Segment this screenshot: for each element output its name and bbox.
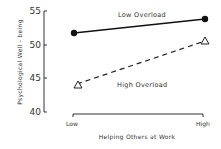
series-label-high-overload: High Overload xyxy=(117,81,167,89)
series-label-low-overload: Low Overload xyxy=(118,11,166,19)
x-axis: Low High Helping Others at Work xyxy=(66,114,210,141)
y-tick-45: 45 xyxy=(30,73,41,83)
y-tick-50: 50 xyxy=(30,40,42,50)
line-chart: 55 50 45 40 Psychological Well - being L… xyxy=(0,0,221,149)
x-category-high: High xyxy=(196,120,210,128)
y-axis-title: Psychological Well - being xyxy=(16,19,24,105)
point-low-overload-low xyxy=(71,30,77,36)
y-axis: 55 50 45 40 Psychological Well - being xyxy=(16,6,47,117)
point-low-overload-high xyxy=(202,16,208,22)
y-tick-55: 55 xyxy=(30,6,41,16)
x-category-low: Low xyxy=(66,120,78,127)
point-high-overload-high xyxy=(201,37,209,44)
series-low-overload: Low Overload xyxy=(71,11,208,36)
y-tick-40: 40 xyxy=(30,107,42,117)
x-axis-title: Helping Others at Work xyxy=(99,133,176,141)
series-high-overload: High Overload xyxy=(74,37,209,89)
point-high-overload-low xyxy=(74,81,82,88)
